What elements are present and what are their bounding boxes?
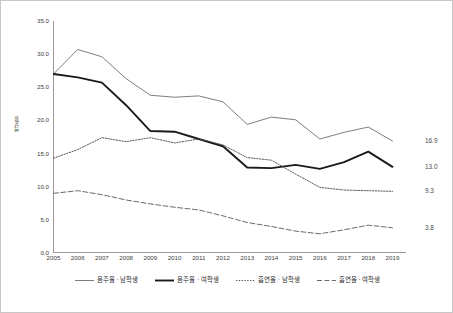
x-tick-label: 2017 <box>331 255 357 261</box>
legend-line-swatch <box>236 277 255 284</box>
legend-line-swatch <box>317 277 336 284</box>
x-tick-label: 2006 <box>65 255 91 261</box>
x-tick-label: 2010 <box>162 255 188 261</box>
x-tick-label: 2012 <box>210 255 236 261</box>
legend-item-3[interactable]: 흡연율 · 여학생 <box>317 277 381 284</box>
legend-item-2[interactable]: 흡연율 · 남학생 <box>236 277 300 284</box>
end-value-label-2: 9.3 <box>425 188 434 194</box>
y-tick-label: 5.0 <box>19 217 49 223</box>
x-tick-label: 2015 <box>283 255 309 261</box>
legend-item-0[interactable]: 음주율 · 남학생 <box>75 277 139 284</box>
x-tick-label: 2019 <box>380 255 406 261</box>
x-tick-label: 2007 <box>89 255 115 261</box>
series-lines <box>54 50 393 234</box>
series-line-0 <box>54 50 393 141</box>
chart-figure: 백분율 0.05.010.015.020.025.030.035.0 20052… <box>0 0 453 313</box>
legend-item-1[interactable]: 음주율 · 여학생 <box>155 277 219 284</box>
x-axis-tick-labels: 2005200620072008200920102011201220132014… <box>53 255 406 267</box>
plot-area <box>53 21 406 253</box>
chart-legend: 음주율 · 남학생음주율 · 여학생흡연율 · 남학생흡연율 · 여학생 <box>1 277 453 284</box>
legend-label: 흡연율 · 여학생 <box>339 277 381 283</box>
end-value-label-0: 16.9 <box>425 138 437 144</box>
legend-label: 흡연율 · 남학생 <box>258 277 300 283</box>
end-value-label-1: 13.0 <box>425 164 437 170</box>
series-end-labels: 16.913.09.33.8 <box>407 1 453 313</box>
series-line-3 <box>54 191 393 234</box>
legend-label: 음주율 · 여학생 <box>177 277 219 283</box>
series-line-1 <box>54 74 393 169</box>
chart-canvas <box>53 21 406 253</box>
y-tick-label: 25.0 <box>19 84 49 90</box>
x-tick-label: 2011 <box>186 255 212 261</box>
x-tick-label: 2018 <box>355 255 381 261</box>
y-tick-label: 35.0 <box>19 18 49 24</box>
y-tick-label: 10.0 <box>19 184 49 190</box>
end-value-label-3: 3.8 <box>425 225 434 231</box>
y-axis-tick-labels: 0.05.010.015.020.025.030.035.0 <box>17 1 49 313</box>
x-tick-label: 2008 <box>113 255 139 261</box>
y-tick-label: 20.0 <box>19 117 49 123</box>
y-tick-label: 15.0 <box>19 151 49 157</box>
legend-line-swatch <box>155 277 174 284</box>
x-tick-label: 2013 <box>234 255 260 261</box>
y-tick-label: 30.0 <box>19 51 49 57</box>
legend-label: 음주율 · 남학생 <box>97 277 139 283</box>
x-tick-label: 2009 <box>137 255 163 261</box>
legend-line-swatch <box>75 277 94 284</box>
x-tick-label: 2016 <box>307 255 333 261</box>
x-tick-label: 2005 <box>41 255 67 261</box>
x-tick-label: 2014 <box>258 255 284 261</box>
